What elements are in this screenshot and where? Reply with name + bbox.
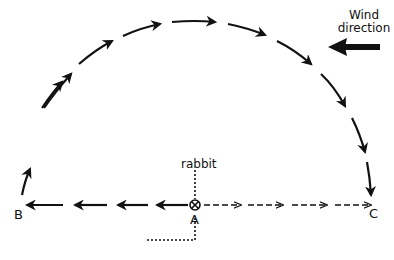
- arc-arrow-9: [321, 74, 345, 106]
- arc-arrow-4: [79, 41, 112, 64]
- arc-arrow-6: [172, 21, 215, 22]
- rabbit-position-icon: [190, 200, 200, 210]
- arc-arrow-8: [277, 41, 311, 64]
- point-a-label: A: [190, 213, 199, 226]
- arc-arrow-5: [123, 24, 160, 36]
- point-b-label: B: [14, 208, 23, 221]
- wind-direction-arrow-icon: [328, 38, 380, 56]
- arc-arrow-7: [228, 24, 265, 35]
- arc-arrow-10: [352, 118, 365, 152]
- point-c-label: C: [369, 207, 378, 220]
- wind-label-line2: direction: [336, 22, 392, 35]
- arc-arrow-2: [42, 82, 62, 108]
- wind-direction-label: Wind direction: [336, 9, 392, 35]
- rabbit-label: rabbit: [181, 158, 217, 170]
- arc-arrow-1: [22, 169, 30, 195]
- arc-arrow-3: [44, 74, 71, 108]
- arc-arrow-11: [367, 162, 371, 195]
